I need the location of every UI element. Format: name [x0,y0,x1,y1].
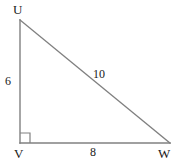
triangle-drawing [0,0,182,166]
vertex-label-u: U [13,3,22,16]
side-length-label-uw: 10 [93,68,105,80]
side-length-label-vw: 8 [90,146,96,158]
right-angle-marker [20,133,30,143]
triangle-figure: U V W 6 8 10 [0,0,182,166]
vertex-label-v: V [14,147,23,160]
side-hypotenuse-uw [20,20,170,143]
vertex-label-w: W [158,147,170,160]
side-length-label-uv: 6 [5,75,11,87]
